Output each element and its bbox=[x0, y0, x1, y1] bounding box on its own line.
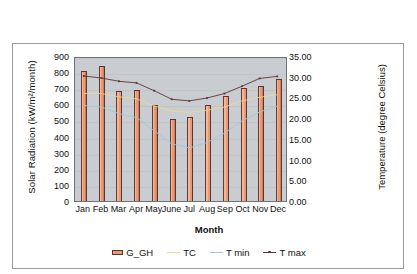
legend-line-swatch bbox=[263, 252, 276, 253]
x-axis-tick-label: Mar bbox=[111, 204, 127, 214]
y-axis-left-tick: 800 bbox=[54, 69, 69, 77]
x-axis-tick-labels: JanFebMarAprMayJuneJulAugSepOctNovDec bbox=[74, 204, 287, 218]
y-axis-left-tick: 900 bbox=[54, 53, 69, 61]
x-axis-tick-label: Jul bbox=[184, 204, 196, 214]
y-axis-right-tick: 15.00 bbox=[289, 136, 312, 144]
legend-item: TC bbox=[167, 247, 196, 258]
legend-item: T max bbox=[263, 247, 305, 258]
line-tc bbox=[84, 94, 277, 113]
y-axis-right-tick: 25.00 bbox=[289, 94, 312, 102]
legend-line-swatch bbox=[210, 252, 223, 253]
y-axis-right-tick: 10.00 bbox=[289, 157, 312, 165]
data-point-marker bbox=[276, 75, 278, 77]
legend-label: T min bbox=[226, 247, 250, 258]
data-point-marker bbox=[136, 82, 138, 84]
y-axis-left-tick: 500 bbox=[54, 117, 69, 125]
screenshot-root: Solar Radiation (kW/m²/month) Temperatur… bbox=[0, 0, 417, 274]
legend-label: G_GH bbox=[126, 247, 153, 258]
data-point-marker bbox=[224, 93, 226, 95]
data-point-marker bbox=[153, 90, 155, 92]
y-axis-right-tick: 0.00 bbox=[289, 198, 307, 206]
data-point-marker bbox=[100, 77, 102, 79]
x-axis-tick-label: Aug bbox=[199, 204, 215, 214]
legend-label: TC bbox=[183, 247, 196, 258]
x-axis-tick-label: Dec bbox=[270, 204, 286, 214]
y-axis-left-tick: 700 bbox=[54, 85, 69, 93]
legend-item: G_GH bbox=[112, 247, 153, 258]
y-axis-right-tick: 35.00 bbox=[289, 53, 312, 61]
x-axis-tick-label: Apr bbox=[129, 204, 143, 214]
data-point-marker bbox=[83, 75, 85, 77]
data-point-marker bbox=[118, 80, 120, 82]
x-axis-title: Month bbox=[13, 224, 405, 235]
y-axis-right-tick: 5.00 bbox=[289, 177, 307, 185]
y-axis-left-tick: 100 bbox=[54, 182, 69, 190]
x-axis-tick-label: Oct bbox=[236, 204, 250, 214]
x-axis-tick-label: May bbox=[145, 204, 162, 214]
chart-object-frame: Solar Radiation (kW/m²/month) Temperatur… bbox=[12, 43, 404, 269]
y-axis-left-tick: 0 bbox=[64, 198, 69, 206]
legend-bar-swatch bbox=[112, 250, 123, 255]
x-axis-tick-label: Sep bbox=[217, 204, 233, 214]
y-axis-left-title: Solar Radiation (kW/m²/month) bbox=[26, 32, 42, 222]
y-axis-left-tick: 600 bbox=[54, 101, 69, 109]
x-axis-tick-label: Nov bbox=[252, 204, 268, 214]
y-axis-right-title: Temperature (degree Celsius) bbox=[376, 52, 402, 202]
data-point-marker bbox=[188, 100, 190, 102]
data-point-marker bbox=[171, 98, 173, 100]
plot-inner bbox=[75, 58, 286, 201]
line-t-max bbox=[84, 76, 277, 101]
data-point-marker bbox=[259, 78, 261, 80]
legend-label: T max bbox=[279, 247, 305, 258]
y-axis-right-tick: 30.00 bbox=[289, 74, 312, 82]
data-point-marker bbox=[241, 85, 243, 87]
y-axis-left-tick: 200 bbox=[54, 166, 69, 174]
x-axis-tick-label: June bbox=[162, 204, 182, 214]
data-point-marker bbox=[206, 97, 208, 99]
x-axis-tick-label: Jan bbox=[76, 204, 91, 214]
x-axis-tick-label: Feb bbox=[93, 204, 109, 214]
y-axis-left-tick: 300 bbox=[54, 150, 69, 158]
y-axis-right-tick: 20.00 bbox=[289, 115, 312, 123]
plot-area bbox=[74, 57, 287, 202]
legend-line-swatch bbox=[167, 252, 180, 253]
chart-legend: G_GHTCT minT max bbox=[13, 244, 405, 260]
line-series-overlay bbox=[75, 58, 286, 201]
y-axis-left-tick: 400 bbox=[54, 134, 69, 142]
legend-item: T min bbox=[210, 247, 250, 258]
